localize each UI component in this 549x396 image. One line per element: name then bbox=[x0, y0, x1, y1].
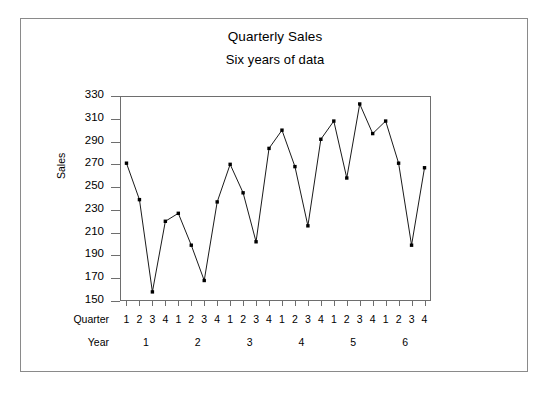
x-tick-mark bbox=[399, 301, 400, 306]
data-point-marker bbox=[280, 128, 283, 131]
x-tick-mark bbox=[126, 301, 127, 306]
y-tick-label: 170 bbox=[85, 270, 104, 282]
data-point-marker bbox=[371, 132, 374, 135]
data-point-marker bbox=[177, 212, 180, 215]
x-tick-mark bbox=[152, 301, 153, 306]
quarter-tick-label: 3 bbox=[357, 311, 363, 327]
y-tick-mark bbox=[111, 210, 120, 211]
y-tick-mark bbox=[111, 255, 120, 256]
x-tick-mark bbox=[308, 301, 309, 306]
data-point-marker bbox=[241, 191, 244, 194]
data-point-marker bbox=[293, 165, 296, 168]
x-tick-mark bbox=[412, 301, 413, 306]
x-tick-mark bbox=[425, 301, 426, 306]
quarter-tick-label: 3 bbox=[253, 311, 259, 327]
quarter-tick-label: 2 bbox=[188, 311, 194, 327]
quarter-tick-label: 1 bbox=[383, 311, 389, 327]
y-tick-mark bbox=[111, 233, 120, 234]
quarter-tick-label: 4 bbox=[266, 311, 272, 327]
year-tick-label: 1 bbox=[143, 334, 149, 350]
quarter-tick-label: 4 bbox=[318, 311, 324, 327]
data-point-marker bbox=[138, 198, 141, 201]
y-tick-mark bbox=[111, 119, 120, 120]
quarter-tick-label: 3 bbox=[149, 311, 155, 327]
chart-subtitle: Six years of data bbox=[21, 50, 529, 70]
quarter-tick-label: 1 bbox=[279, 311, 285, 327]
quarter-tick-label: 1 bbox=[227, 311, 233, 327]
x-tick-mark bbox=[243, 301, 244, 306]
y-tick-label: 290 bbox=[85, 134, 104, 146]
y-tick-label: 250 bbox=[85, 179, 104, 191]
quarter-tick-label: 2 bbox=[396, 311, 402, 327]
quarter-tick-label: 3 bbox=[409, 311, 415, 327]
year-tick-label: 2 bbox=[195, 334, 201, 350]
year-tick-label: 3 bbox=[247, 334, 253, 350]
quarter-tick-label: 3 bbox=[201, 311, 207, 327]
x-tick-mark bbox=[139, 301, 140, 306]
quarter-tick-label: 1 bbox=[175, 311, 181, 327]
data-point-marker bbox=[384, 119, 387, 122]
year-tick-label: 5 bbox=[350, 334, 356, 350]
x-tick-mark bbox=[321, 301, 322, 306]
data-point-marker bbox=[358, 102, 361, 105]
x-tick-mark bbox=[204, 301, 205, 306]
y-tick-label: 310 bbox=[85, 111, 104, 123]
quarter-axis-row: Quarter 123412341234123412341234 bbox=[21, 311, 529, 327]
year-axis-row: Year 123456 bbox=[21, 334, 529, 350]
data-point-marker bbox=[203, 279, 206, 282]
chart-title: Quarterly Sales bbox=[21, 27, 529, 47]
data-point-marker bbox=[125, 161, 128, 164]
x-tick-mark bbox=[165, 301, 166, 306]
y-tick-mark bbox=[111, 96, 120, 97]
x-tick-mark bbox=[191, 301, 192, 306]
y-tick-label: 230 bbox=[85, 202, 104, 214]
data-point-marker bbox=[190, 243, 193, 246]
quarter-tick-label: 4 bbox=[422, 311, 428, 327]
x-tick-mark bbox=[334, 301, 335, 306]
data-point-marker bbox=[410, 243, 413, 246]
data-point-marker bbox=[151, 290, 154, 293]
y-tick-mark bbox=[111, 164, 120, 165]
year-tick-label: 6 bbox=[402, 334, 408, 350]
quarter-tick-label: 1 bbox=[331, 311, 337, 327]
data-point-marker bbox=[164, 220, 167, 223]
x-tick-mark bbox=[256, 301, 257, 306]
quarter-tick-label: 3 bbox=[305, 311, 311, 327]
x-tick-mark bbox=[347, 301, 348, 306]
y-tick-label: 330 bbox=[85, 88, 104, 100]
sales-series bbox=[120, 96, 431, 301]
quarter-tick-label: 4 bbox=[214, 311, 220, 327]
title-block: Quarterly Sales Six years of data bbox=[21, 27, 529, 70]
x-tick-mark bbox=[269, 301, 270, 306]
x-tick-mark bbox=[282, 301, 283, 306]
y-axis: 330310290270250230210190170150 bbox=[21, 96, 120, 301]
x-tick-mark bbox=[295, 301, 296, 306]
y-tick-mark bbox=[111, 278, 120, 279]
series-line bbox=[126, 104, 424, 292]
quarter-tick-label: 2 bbox=[137, 311, 143, 327]
quarter-tick-label: 1 bbox=[124, 311, 130, 327]
data-point-marker bbox=[423, 166, 426, 169]
data-point-marker bbox=[254, 240, 257, 243]
year-axis-label: Year bbox=[43, 334, 109, 350]
y-tick-label: 150 bbox=[85, 293, 104, 305]
quarter-tick-label: 2 bbox=[344, 311, 350, 327]
quarter-tick-label: 4 bbox=[162, 311, 168, 327]
x-tick-mark bbox=[360, 301, 361, 306]
x-tick-mark bbox=[373, 301, 374, 306]
x-tick-mark bbox=[217, 301, 218, 306]
data-point-marker bbox=[267, 147, 270, 150]
y-tick-mark bbox=[111, 187, 120, 188]
data-point-marker bbox=[397, 161, 400, 164]
data-point-marker bbox=[306, 224, 309, 227]
chart-figure: Quarterly Sales Six years of data Sales … bbox=[20, 18, 528, 372]
quarter-tick-label: 2 bbox=[292, 311, 298, 327]
data-point-marker bbox=[319, 138, 322, 141]
quarter-tick-label: 4 bbox=[370, 311, 376, 327]
y-tick-mark bbox=[111, 301, 120, 302]
x-tick-mark bbox=[178, 301, 179, 306]
data-point-marker bbox=[215, 200, 218, 203]
data-point-marker bbox=[228, 163, 231, 166]
quarter-tick-label: 2 bbox=[240, 311, 246, 327]
data-point-marker bbox=[332, 119, 335, 122]
